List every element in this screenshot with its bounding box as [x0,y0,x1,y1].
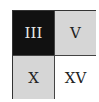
grid-cell-xv: XV [55,56,96,99]
cell-label: XV [65,69,87,87]
cell-label: V [70,24,81,42]
cell-label: III [25,24,43,42]
cell-label: X [28,69,39,87]
grid-cell-x: X [13,56,55,99]
grid-cell-iii: III [13,11,55,56]
grid-cell-v: V [55,11,96,56]
roman-numeral-grid: III V X XV [12,10,96,99]
